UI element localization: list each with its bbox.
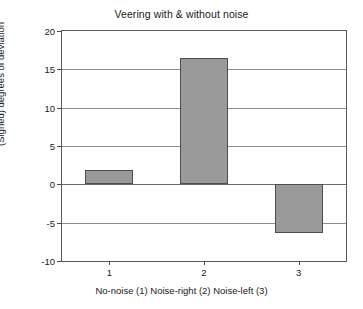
x-axis-label: No-noise (1) Noise-right (2) Noise-left … bbox=[0, 285, 363, 296]
y-tick-label: -5 bbox=[47, 217, 55, 228]
y-tick-mark bbox=[57, 184, 62, 185]
x-tick-label: 2 bbox=[201, 267, 206, 278]
bar bbox=[85, 170, 133, 185]
chart-figure: Veering with & without noise (Signed) de… bbox=[0, 0, 363, 309]
y-tick-mark bbox=[57, 108, 62, 109]
x-tick-mark bbox=[299, 261, 300, 265]
y-tick-mark bbox=[57, 69, 62, 70]
plot-area: 20151050-5-10 123 bbox=[61, 30, 347, 262]
y-tick-label: 20 bbox=[44, 26, 55, 37]
x-tick-mark bbox=[109, 261, 110, 265]
y-tick-label: 5 bbox=[50, 141, 55, 152]
y-tick-label: 0 bbox=[50, 179, 55, 190]
y-tick-mark bbox=[57, 146, 62, 147]
x-tick-label: 3 bbox=[296, 267, 301, 278]
y-tick-mark bbox=[57, 31, 62, 32]
bar bbox=[275, 184, 323, 232]
x-tick-label: 1 bbox=[107, 267, 112, 278]
y-tick-label: 10 bbox=[44, 102, 55, 113]
y-tick-label: -10 bbox=[41, 256, 55, 267]
y-tick-mark bbox=[57, 223, 62, 224]
y-axis-label: (Signed) degrees of deviation bbox=[0, 22, 6, 146]
chart-title: Veering with & without noise bbox=[0, 8, 363, 20]
y-tick-mark bbox=[57, 261, 62, 262]
y-tick-label: 15 bbox=[44, 64, 55, 75]
bar bbox=[180, 58, 228, 185]
x-tick-mark bbox=[204, 261, 205, 265]
